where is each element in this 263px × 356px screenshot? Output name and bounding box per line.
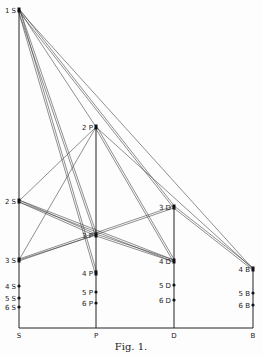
- diagram-canvas: SPDB 1 S2 S3 S4 S5 S6 S2 P3 P4 P5 P6 P3 …: [0, 0, 263, 356]
- level-point-6B: [251, 303, 254, 306]
- transition-1S-4B: [19, 10, 253, 269]
- transition-3D-4B: [175, 206, 254, 268]
- level-label-4P: 4 P: [82, 270, 93, 278]
- level-label-5B: 5 B: [239, 290, 251, 298]
- transition-2P-4D: [95, 127, 173, 261]
- level-point-1S: [18, 8, 21, 13]
- level-label-4D: 4 D: [159, 258, 171, 266]
- level-label-3D: 3 D: [159, 204, 171, 212]
- level-point-5P: [94, 290, 97, 293]
- level-point-4D: [173, 259, 176, 264]
- axis-label-P: P: [94, 332, 98, 340]
- level-label-2S: 2 S: [5, 198, 17, 206]
- level-point-3P: [95, 233, 98, 238]
- level-label-1S: 1 S: [5, 7, 17, 15]
- level-label-3S: 3 S: [5, 257, 17, 265]
- axis-label-D: D: [171, 332, 176, 340]
- level-label-6S: 6 S: [5, 304, 17, 312]
- transition-3P-4D: [96, 234, 174, 260]
- transition-1S-3P: [20, 10, 97, 235]
- transition-3D-4B: [173, 208, 252, 270]
- level-point-6S: [17, 305, 20, 308]
- level-point-2P: [95, 125, 98, 130]
- figure-caption: Fig. 1.: [115, 341, 147, 352]
- level-point-3S: [18, 258, 21, 263]
- level-point-5B: [251, 291, 254, 294]
- series-axes: SPDB: [17, 10, 256, 340]
- level-point-4S: [17, 284, 20, 287]
- level-point-3D: [173, 205, 176, 210]
- level-point-5S: [17, 296, 20, 299]
- transition-1S-2P: [19, 10, 96, 127]
- level-point-6D: [172, 298, 175, 301]
- axis-label-B: B: [251, 332, 256, 340]
- level-label-4B: 4 B: [239, 266, 251, 274]
- level-point-4B: [252, 267, 255, 272]
- level-label-5S: 5 S: [5, 295, 17, 303]
- level-label-2P: 2 P: [82, 124, 93, 132]
- transition-2P-3S: [19, 127, 96, 260]
- level-point-4P: [95, 271, 98, 276]
- energy-levels: 1 S2 S3 S4 S5 S6 S2 P3 P4 P5 P6 P3 D4 D5…: [5, 7, 255, 312]
- transition-lines: [18, 9, 253, 273]
- level-label-6D: 6 D: [159, 297, 171, 305]
- level-label-5P: 5 P: [82, 289, 93, 297]
- level-label-3P: 3 P: [82, 232, 93, 240]
- level-label-6P: 6 P: [82, 300, 93, 308]
- level-label-4S: 4 S: [5, 283, 17, 291]
- level-point-5D: [172, 283, 175, 286]
- transition-2P-4D: [97, 127, 175, 261]
- level-label-5D: 5 D: [159, 282, 171, 290]
- energy-level-diagram: SPDB 1 S2 S3 S4 S5 S6 S2 P3 P4 P5 P6 P3 …: [0, 0, 263, 356]
- axis-label-S: S: [17, 332, 22, 340]
- level-label-6B: 6 B: [239, 302, 251, 310]
- level-point-2S: [18, 199, 21, 204]
- level-point-6P: [94, 301, 97, 304]
